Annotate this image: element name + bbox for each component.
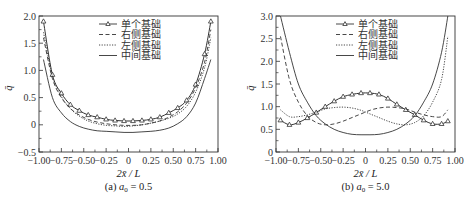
x-tick-label: −0.75 (287, 155, 310, 166)
y-tick-label: 0.5 (24, 92, 37, 103)
chart-panel-a: −1.00−0.75−0.50−0.2500.250.500.751.00−0.… (3, 11, 227, 195)
x-tick-label: −0.75 (50, 155, 73, 166)
triangle-marker-icon (394, 102, 399, 106)
y-tick-label: 1.5 (261, 79, 274, 90)
x-tick-label: 0.75 (424, 155, 442, 166)
x-tick-label: 1.00 (446, 155, 464, 166)
triangle-marker-icon (175, 105, 180, 109)
x-tick-label: 0 (363, 155, 368, 166)
legend-entry: 中间基础 (121, 49, 161, 61)
y-tick-label: 0.5 (261, 124, 274, 135)
x-tick-label: −0.50 (309, 155, 332, 166)
legend-entry: 左侧基础 (121, 39, 161, 51)
panel-caption: (b) a0 = 5.0 (342, 181, 390, 194)
legend-entry: 右侧基础 (358, 28, 398, 40)
x-tick-label: 0.25 (379, 155, 397, 166)
x-tick-label: 1.00 (209, 155, 227, 166)
legend: 单个基础右侧基础左侧基础中间基础 (99, 18, 161, 62)
y-tick-label: 1.5 (24, 38, 37, 49)
x-tick-label: 0.50 (402, 155, 420, 166)
triangle-marker-icon (278, 118, 283, 122)
y-axis-label: q̄ (3, 85, 14, 90)
y-tick-label: 0 (31, 119, 36, 130)
y-tick-label: 3.0 (261, 11, 274, 22)
x-tick-label: 0.50 (165, 155, 183, 166)
y-tick-label: 0 (268, 147, 273, 158)
y-tick-label: 1.0 (261, 101, 274, 112)
y-tick-label: 1.0 (24, 65, 37, 76)
x-axis-label: 2x̄ / L (117, 168, 141, 179)
triangle-marker-icon (41, 19, 46, 23)
triangle-marker-icon (445, 119, 450, 123)
x-tick-label: 0.75 (187, 155, 205, 166)
x-tick-labels: −1.00−0.75−0.50−0.2500.250.500.751.00 (264, 155, 463, 166)
x-tick-label: 0 (126, 155, 131, 166)
y-tick-label: −0.5 (18, 147, 36, 158)
x-tick-label: 0.25 (142, 155, 160, 166)
x-tick-labels: −1.00−0.75−0.50−0.2500.250.500.751.00 (27, 155, 226, 166)
y-tick-label: 2.0 (261, 56, 274, 67)
legend-entry: 单个基础 (121, 18, 161, 30)
x-tick-label: −0.25 (332, 155, 355, 166)
x-axis-label: 2x̄ / L (354, 168, 378, 179)
triangle-marker-icon (208, 19, 213, 23)
panel-caption: (a) a0 = 0.5 (105, 181, 152, 194)
x-tick-label: −0.25 (95, 155, 118, 166)
triangle-marker-icon (193, 82, 198, 86)
legend: 单个基础右侧基础左侧基础中间基础 (336, 18, 398, 62)
y-axis-label: q̄ (245, 85, 256, 90)
figure: −1.00−0.75−0.50−0.2500.250.500.751.00−0.… (0, 0, 474, 202)
legend-entry: 左侧基础 (358, 39, 398, 51)
y-tick-label: 2.5 (261, 33, 274, 44)
y-tick-label: 2.0 (24, 11, 37, 22)
legend-entry: 右侧基础 (121, 28, 161, 40)
x-tick-label: −0.50 (72, 155, 95, 166)
legend-entry: 单个基础 (358, 18, 398, 30)
chart-panel-b: −1.00−0.75−0.50−0.2500.250.500.751.0000.… (245, 11, 464, 195)
legend-entry: 中间基础 (358, 49, 398, 61)
